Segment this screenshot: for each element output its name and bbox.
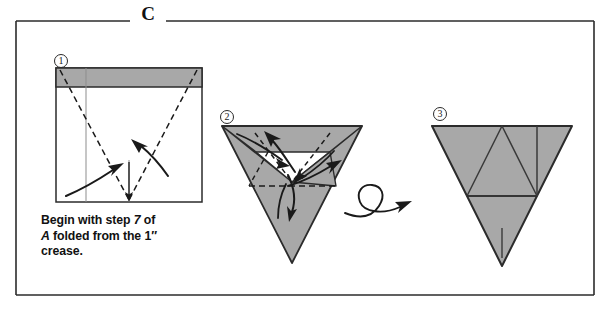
step-1-caption: Begin with step 7 of A folded from the 1… xyxy=(41,213,219,260)
step-1-diagram xyxy=(56,68,202,202)
caption-line1-a: Begin with step xyxy=(41,213,134,227)
step-number-2: 2 xyxy=(220,110,237,125)
step-2-diagram xyxy=(222,126,362,263)
turn-over-arrow-icon xyxy=(345,185,412,216)
step-3-diagram xyxy=(432,126,572,266)
step-number-value: 2 xyxy=(220,110,234,124)
figure-canvas xyxy=(0,0,609,317)
caption-line1-c: of xyxy=(140,213,155,227)
section-letter: C xyxy=(131,4,165,24)
step-number-3: 3 xyxy=(433,107,450,122)
step-number-value: 3 xyxy=(433,107,447,121)
caption-model-reference: A xyxy=(41,229,50,243)
step-number-value: 1 xyxy=(54,54,68,68)
step2-triangle-body xyxy=(222,126,362,263)
step-number-1: 1 xyxy=(54,54,71,69)
step1-shaded-band xyxy=(56,68,202,87)
caption-line3: crease. xyxy=(41,244,83,258)
caption-line2-b: folded from the 1″ xyxy=(50,229,157,243)
origami-instruction-figure: C 1 2 3 Begin with step 7 of A folded fr… xyxy=(0,0,609,317)
